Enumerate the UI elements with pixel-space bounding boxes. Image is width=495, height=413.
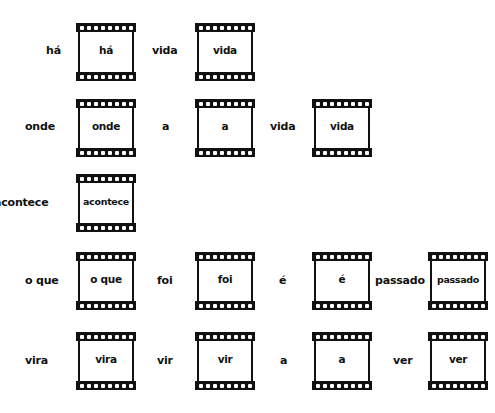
- sprocket-hole: [439, 255, 443, 259]
- sprocket-hole: [87, 255, 91, 259]
- sprocket-hole: [337, 335, 341, 339]
- film-sprocket-band: [428, 332, 488, 341]
- sprocket-hole: [101, 177, 105, 181]
- film-frame-icon: vida: [195, 23, 255, 81]
- sprocket-hole: [101, 26, 105, 30]
- sprocket-hole: [101, 75, 105, 79]
- sprocket-hole: [122, 177, 126, 181]
- sprocket-hole: [206, 75, 210, 79]
- sprocket-hole: [248, 26, 252, 30]
- sprocket-hole: [323, 384, 327, 388]
- film-frame-icon: vida: [312, 99, 372, 157]
- sprocket-hole: [206, 255, 210, 259]
- sprocket-hole: [358, 255, 362, 259]
- sprocket-hole: [80, 75, 84, 79]
- sprocket-hole: [446, 335, 450, 339]
- film-frame-window: passado: [430, 261, 486, 301]
- sprocket-hole: [248, 75, 252, 79]
- sprocket-hole: [199, 75, 203, 79]
- sprocket-hole: [330, 151, 334, 155]
- sprocket-hole: [94, 75, 98, 79]
- sprocket-hole: [199, 26, 203, 30]
- sprocket-hole: [206, 26, 210, 30]
- sprocket-hole: [129, 102, 133, 106]
- film-frame-icon: há: [76, 23, 136, 81]
- sprocket-hole: [241, 335, 245, 339]
- sprocket-hole: [206, 151, 210, 155]
- film-sprocket-band: [76, 301, 136, 310]
- sprocket-hole: [122, 151, 126, 155]
- sprocket-hole: [467, 335, 471, 339]
- sprocket-hole: [344, 304, 348, 308]
- sprocket-hole: [206, 335, 210, 339]
- sprocket-hole: [213, 384, 217, 388]
- film-sprocket-band: [195, 72, 255, 81]
- sprocket-hole: [234, 304, 238, 308]
- film-sprocket-band: [76, 72, 136, 81]
- sprocket-hole: [227, 335, 231, 339]
- sprocket-hole: [94, 304, 98, 308]
- sprocket-hole: [439, 335, 443, 339]
- sprocket-hole: [351, 255, 355, 259]
- sprocket-hole: [474, 384, 478, 388]
- sprocket-hole: [432, 384, 436, 388]
- word-passado: passado: [375, 274, 425, 288]
- film-frame-icon: a: [312, 332, 372, 390]
- word-o-que: o que: [25, 274, 59, 288]
- word-acontece: acontece: [0, 196, 48, 210]
- sprocket-hole: [460, 335, 464, 339]
- film-frame-window: a: [314, 341, 370, 381]
- sprocket-hole: [108, 177, 112, 181]
- film-sprocket-band: [195, 148, 255, 157]
- sprocket-hole: [199, 384, 203, 388]
- film-sprocket-band: [76, 223, 136, 232]
- film-sprocket-band: [428, 381, 488, 390]
- sprocket-hole: [365, 335, 369, 339]
- sprocket-hole: [344, 384, 348, 388]
- sprocket-hole: [481, 384, 485, 388]
- sprocket-hole: [446, 384, 450, 388]
- sprocket-hole: [474, 335, 478, 339]
- sprocket-hole: [460, 255, 464, 259]
- sprocket-hole: [453, 384, 457, 388]
- word-ha: há: [46, 44, 61, 58]
- sprocket-hole: [122, 335, 126, 339]
- sprocket-hole: [241, 151, 245, 155]
- sprocket-hole: [220, 75, 224, 79]
- sprocket-hole: [87, 304, 91, 308]
- sprocket-hole: [234, 26, 238, 30]
- sprocket-hole: [234, 255, 238, 259]
- sprocket-hole: [330, 255, 334, 259]
- sprocket-hole: [122, 26, 126, 30]
- frame-word: a: [222, 120, 229, 132]
- sprocket-hole: [122, 304, 126, 308]
- sprocket-hole: [115, 384, 119, 388]
- sprocket-hole: [108, 226, 112, 230]
- film-sprocket-band: [428, 252, 488, 261]
- sprocket-hole: [87, 102, 91, 106]
- sprocket-hole: [248, 255, 252, 259]
- word-ver: ver: [393, 354, 412, 368]
- sprocket-hole: [199, 304, 203, 308]
- sprocket-hole: [234, 102, 238, 106]
- film-frame-icon: é: [312, 252, 372, 310]
- film-sprocket-band: [76, 23, 136, 32]
- sprocket-hole: [94, 151, 98, 155]
- film-frame-window: há: [78, 32, 134, 72]
- word-a: a: [280, 354, 287, 368]
- sprocket-hole: [481, 335, 485, 339]
- sprocket-hole: [351, 335, 355, 339]
- word-vir: vir: [157, 354, 173, 368]
- film-frame-icon: foi: [195, 252, 255, 310]
- sprocket-hole: [94, 26, 98, 30]
- sprocket-hole: [80, 26, 84, 30]
- sprocket-hole: [446, 304, 450, 308]
- sprocket-hole: [122, 226, 126, 230]
- sprocket-hole: [129, 75, 133, 79]
- sprocket-hole: [460, 304, 464, 308]
- sprocket-hole: [248, 102, 252, 106]
- sprocket-hole: [129, 255, 133, 259]
- sprocket-hole: [467, 255, 471, 259]
- sprocket-hole: [316, 151, 320, 155]
- film-sprocket-band: [312, 301, 372, 310]
